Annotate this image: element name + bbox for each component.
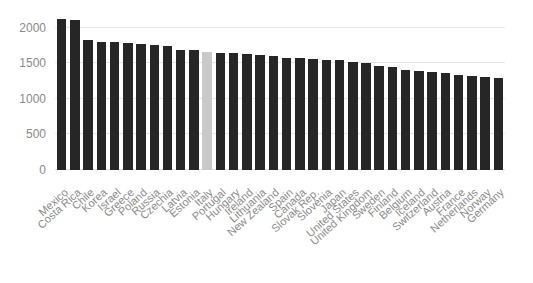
bar-slot (399, 0, 412, 170)
bar-slot (359, 0, 372, 170)
bar-slot (346, 0, 359, 170)
bar[interactable] (255, 55, 265, 170)
bar[interactable] (494, 78, 504, 170)
bar[interactable] (374, 66, 384, 170)
bar-slot (134, 0, 147, 170)
bar[interactable] (70, 20, 80, 170)
bar[interactable] (480, 77, 490, 170)
bar[interactable] (401, 70, 411, 170)
bar-slot (214, 0, 227, 170)
bar[interactable] (216, 53, 226, 170)
bar[interactable] (335, 60, 345, 170)
bar-slot (306, 0, 319, 170)
bar[interactable] (202, 52, 212, 170)
bar-series (55, 0, 505, 170)
bar[interactable] (467, 76, 477, 170)
bar-slot (254, 0, 267, 170)
x-slot: Germany (492, 180, 505, 280)
bar-slot (333, 0, 346, 170)
bar-slot (373, 0, 386, 170)
bar-slot (426, 0, 439, 170)
bar[interactable] (229, 53, 239, 170)
bar[interactable] (83, 40, 93, 170)
bar-slot (81, 0, 94, 170)
bar[interactable] (348, 62, 358, 170)
bar-slot (267, 0, 280, 170)
bar-slot (187, 0, 200, 170)
bar[interactable] (176, 50, 186, 170)
bar-slot (201, 0, 214, 170)
bar-slot (479, 0, 492, 170)
plot-area (55, 0, 505, 178)
bar[interactable] (295, 58, 305, 170)
bar-slot (161, 0, 174, 170)
bar[interactable] (163, 46, 173, 170)
bar-slot (280, 0, 293, 170)
bar[interactable] (136, 44, 146, 170)
bar-slot (386, 0, 399, 170)
bar-slot (121, 0, 134, 170)
bar[interactable] (282, 58, 292, 170)
bar[interactable] (97, 42, 107, 170)
bar[interactable] (57, 19, 67, 170)
bar[interactable] (441, 73, 451, 170)
bar[interactable] (414, 71, 424, 170)
bar-slot (95, 0, 108, 170)
bar[interactable] (322, 60, 332, 170)
bar-slot (293, 0, 306, 170)
y-axis: 05001000150020002500 (0, 0, 55, 283)
bar-slot (439, 0, 452, 170)
bar-slot (412, 0, 425, 170)
bar[interactable] (242, 54, 252, 170)
bar[interactable] (454, 75, 464, 170)
bar[interactable] (123, 43, 133, 170)
bar[interactable] (150, 45, 160, 170)
bar-chart: 05001000150020002500 MexicoCosta RicaChi… (0, 0, 533, 283)
y-tick-label: 1000 (19, 93, 46, 105)
bar-slot (55, 0, 68, 170)
bar-slot (108, 0, 121, 170)
bar[interactable] (388, 67, 398, 170)
y-tick-label: 1500 (19, 57, 46, 69)
bar-slot (452, 0, 465, 170)
y-tick-label: 0 (39, 164, 46, 176)
bar-slot (227, 0, 240, 170)
y-tick-label: 500 (26, 128, 46, 140)
bar-slot (174, 0, 187, 170)
bar-slot (240, 0, 253, 170)
bar-slot (68, 0, 81, 170)
bar-slot (492, 0, 505, 170)
bar[interactable] (361, 63, 371, 170)
bar[interactable] (189, 50, 199, 170)
bar[interactable] (269, 56, 279, 170)
x-axis: MexicoCosta RicaChileKoreaIsraelGreecePo… (55, 180, 505, 280)
y-tick-label: 2000 (19, 22, 46, 34)
bar[interactable] (427, 72, 437, 170)
bar-slot (320, 0, 333, 170)
bar-slot (465, 0, 478, 170)
bar[interactable] (308, 59, 318, 170)
bar-slot (148, 0, 161, 170)
bar[interactable] (110, 42, 120, 170)
